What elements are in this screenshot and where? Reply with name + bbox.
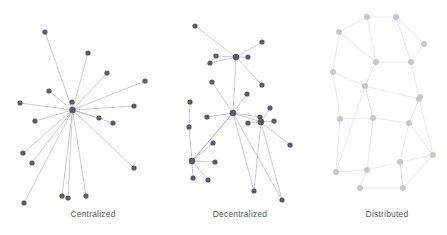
graph-node <box>186 124 191 129</box>
graph-edge <box>68 110 73 198</box>
graph-hub-node <box>233 54 240 61</box>
graph-node <box>267 105 272 110</box>
graph-edge <box>333 72 365 86</box>
graph-node <box>65 195 70 200</box>
graph-edge <box>403 155 433 188</box>
graph-edge <box>411 44 424 62</box>
graph-node <box>21 200 26 205</box>
graph-edge <box>336 119 340 172</box>
edge-group-decentralized <box>189 26 290 200</box>
graph-node <box>408 59 414 65</box>
graph-node <box>406 120 412 126</box>
graph-edge <box>207 113 233 117</box>
graph-edge <box>400 123 409 162</box>
graph-node <box>430 152 436 158</box>
graph-edge <box>339 17 367 32</box>
topology-canvas <box>0 0 447 235</box>
graph-node <box>192 23 197 28</box>
graph-node <box>287 142 292 147</box>
graph-edge <box>32 110 73 163</box>
graph-node <box>104 70 109 75</box>
graph-node <box>204 114 209 119</box>
graph-edge <box>409 99 419 123</box>
graph-edge <box>73 110 114 123</box>
node-group-centralized <box>17 29 147 205</box>
graph-edge <box>261 122 290 145</box>
graph-node <box>397 159 403 165</box>
graph-edge <box>210 57 236 63</box>
graph-node <box>83 193 88 198</box>
graph-node <box>373 59 379 65</box>
graph-node <box>370 115 376 121</box>
graph-node <box>336 29 342 35</box>
graph-edge <box>419 99 433 155</box>
graph-edge <box>45 32 73 110</box>
graph-edge <box>195 26 236 57</box>
graph-node <box>142 78 147 83</box>
graph-node <box>209 79 214 84</box>
graph-node <box>245 120 250 125</box>
graph-node <box>271 118 276 123</box>
graph-edge <box>35 110 73 121</box>
graph-hub-node <box>69 107 75 113</box>
graph-node <box>29 160 34 165</box>
graph-node <box>42 29 47 34</box>
graph-edge <box>62 110 73 196</box>
graph-edge <box>365 62 376 86</box>
graph-edge <box>333 72 340 119</box>
node-group-decentralized <box>186 23 292 202</box>
graph-edge <box>365 86 419 99</box>
graph-node <box>330 69 336 75</box>
graph-node <box>333 169 339 175</box>
graph-edge <box>23 110 73 153</box>
graph-node <box>400 185 406 191</box>
graph-edge <box>20 103 73 110</box>
graph-edge <box>73 110 135 168</box>
edges-layer <box>20 17 433 203</box>
panel-label-decentralized: Decentralized <box>178 209 302 219</box>
graph-node <box>362 83 368 89</box>
graph-node <box>259 82 264 87</box>
graph-node <box>59 193 64 198</box>
graph-node <box>251 188 256 193</box>
graph-node <box>213 53 218 58</box>
graph-node <box>259 39 264 44</box>
panel-label-distributed: Distributed <box>330 209 444 219</box>
edge-group-centralized <box>20 32 145 203</box>
graph-node <box>279 197 284 202</box>
graph-hub-node <box>230 110 237 117</box>
graph-edge <box>254 122 261 191</box>
graph-edge <box>339 32 376 62</box>
panel-label-centralized: Centralized <box>38 209 148 219</box>
graph-edge <box>236 57 262 85</box>
graph-node <box>212 159 217 164</box>
graph-edge <box>212 82 233 113</box>
graph-edge <box>261 122 282 200</box>
graph-edge <box>192 113 233 161</box>
graph-edge <box>233 113 254 191</box>
graph-node <box>96 115 101 120</box>
graph-edge <box>367 118 373 170</box>
graph-node <box>244 91 249 96</box>
graph-node <box>131 103 136 108</box>
graph-edge <box>333 32 339 72</box>
graph-edge <box>411 62 419 99</box>
graph-node <box>69 99 74 104</box>
graph-edge <box>367 17 376 62</box>
nodes-layer <box>17 14 436 206</box>
graph-node <box>17 100 22 105</box>
graph-node <box>187 99 192 104</box>
graph-edge <box>336 170 367 172</box>
graph-node <box>46 88 51 93</box>
graph-node <box>131 165 136 170</box>
graph-edge <box>233 113 260 117</box>
graph-node <box>357 185 363 191</box>
graph-edge <box>367 162 400 170</box>
edge-group-distributed <box>333 17 433 188</box>
graph-node <box>205 177 210 182</box>
graph-edge <box>233 94 247 113</box>
graph-edge <box>24 110 73 203</box>
graph-edge <box>192 143 213 161</box>
graph-edge <box>192 161 215 162</box>
graph-node <box>20 150 25 155</box>
